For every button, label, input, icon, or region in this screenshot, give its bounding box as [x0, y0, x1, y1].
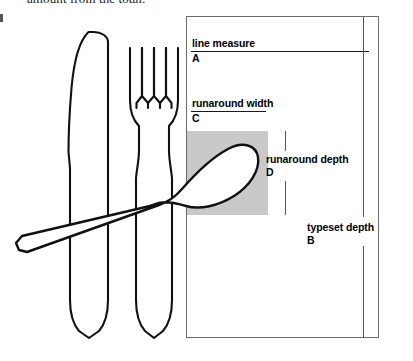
rule-runaround-depth-bottom [285, 181, 286, 215]
rule-typeset-depth-bottom [363, 246, 364, 338]
knife-shape [69, 32, 109, 338]
rule-runaround-depth-top [285, 131, 286, 151]
key-typeset-depth: B [307, 234, 315, 246]
label-runaround-depth: runaround depth [266, 153, 349, 166]
spoon-neck-line [150, 205, 159, 206]
cutlery-illustration [0, 0, 270, 361]
label-typeset-depth: typeset depth [307, 221, 374, 234]
rule-typeset-depth-top [363, 17, 364, 217]
